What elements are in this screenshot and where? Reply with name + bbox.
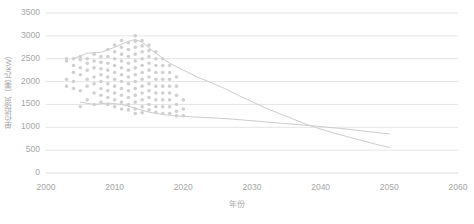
scatter-point: [182, 107, 186, 111]
scatter-point: [147, 61, 151, 65]
scatter-point: [127, 41, 131, 45]
scatter-point: [85, 61, 89, 65]
scatter-point: [133, 40, 137, 44]
scatter-point: [140, 98, 144, 102]
scatter-point: [92, 66, 96, 70]
scatter-point: [147, 68, 151, 72]
scatter-point: [182, 114, 186, 118]
scatter-point: [92, 59, 96, 63]
scatter-point: [99, 87, 103, 91]
scatter-point: [168, 105, 172, 109]
scatter-point: [140, 105, 144, 109]
scatter-point: [72, 80, 76, 84]
gridlines-group: [46, 13, 458, 173]
scatter-point: [161, 91, 165, 95]
scatter-point: [175, 109, 179, 113]
scatter-point: [106, 48, 110, 52]
scatter-point: [161, 84, 165, 88]
scatter-point: [120, 80, 124, 84]
scatter-point: [133, 80, 137, 84]
scatter-point: [133, 66, 137, 70]
scatter-point: [106, 61, 110, 65]
y-tick-label: 1500: [6, 98, 40, 108]
scatter-point: [99, 80, 103, 84]
scatter-point: [113, 84, 117, 88]
scatter-point: [147, 43, 151, 47]
scatter-point: [133, 112, 137, 116]
y-axis-label: 单位投资（美元/kW）: [3, 51, 14, 129]
scatter-point: [106, 82, 110, 86]
scatter-point: [99, 93, 103, 97]
scatter-point: [79, 58, 83, 62]
scatter-point: [154, 71, 158, 75]
scatter-point: [113, 50, 117, 54]
scatter-point: [127, 75, 131, 79]
scatter-point: [79, 73, 83, 77]
scatter-point: [161, 71, 165, 75]
scatter-point: [127, 68, 131, 72]
scatter-point: [133, 73, 137, 77]
scatter-point: [99, 61, 103, 65]
scatter-point: [147, 75, 151, 79]
scatter-point: [147, 103, 151, 107]
x-tick-label: 2010: [95, 182, 135, 192]
scatter-point: [133, 45, 137, 49]
scatter-point: [65, 59, 69, 63]
scatter-point: [120, 107, 124, 111]
scatter-point: [133, 52, 137, 56]
chart-container: 单位投资（美元/kW） 年份 0500100015002000250030003…: [0, 0, 474, 224]
scatter-point: [106, 96, 110, 100]
scatter-point: [140, 71, 144, 75]
scatter-point: [120, 39, 124, 43]
scatter-point: [168, 71, 172, 75]
scatter-point: [154, 91, 158, 95]
scatter-point: [120, 66, 124, 70]
scatter-point: [120, 87, 124, 91]
scatter-point: [147, 96, 151, 100]
scatter-point: [168, 77, 172, 81]
scatter-point: [72, 57, 76, 61]
scatter-point: [161, 112, 165, 116]
scatter-point: [133, 93, 137, 97]
scatter-point: [154, 50, 158, 54]
scatter-point: [168, 84, 172, 88]
x-tick-label: 2030: [232, 182, 272, 192]
x-tick-label: 2020: [163, 182, 203, 192]
scatter-point: [168, 64, 172, 68]
scatter-point: [85, 57, 89, 61]
scatter-point: [147, 49, 151, 53]
trend-line: [80, 102, 389, 134]
scatter-point: [99, 100, 103, 104]
x-axis-label: 年份: [0, 198, 474, 209]
scatter-point: [140, 39, 144, 43]
scatter-point: [113, 64, 117, 68]
scatter-point: [120, 59, 124, 63]
scatter-point: [133, 100, 137, 104]
scatter-point: [85, 68, 89, 72]
scatter-point: [72, 71, 76, 75]
scatter-point: [161, 98, 165, 102]
scatter-point: [161, 64, 165, 68]
scatter-point: [147, 108, 151, 112]
scatter-point: [79, 105, 83, 109]
scatter-point: [92, 103, 96, 107]
scatter-point: [85, 84, 89, 88]
y-tick-label: 2000: [6, 76, 40, 86]
scatter-point: [120, 93, 124, 97]
scatter-point: [140, 50, 144, 54]
x-tick-label: 2040: [301, 182, 341, 192]
scatter-point: [147, 82, 151, 86]
scatter-point: [79, 89, 83, 93]
scatter-point: [79, 55, 83, 59]
scatter-point: [92, 52, 96, 56]
scatter-point: [140, 91, 144, 95]
scatter-point: [154, 84, 158, 88]
scatter-point: [120, 73, 124, 77]
scatter-point: [79, 66, 83, 70]
scatter-point: [127, 48, 131, 52]
scatter-point: [133, 34, 137, 38]
scatter-point: [140, 57, 144, 61]
scatter-point: [113, 105, 117, 109]
y-tick-label: 1000: [6, 121, 40, 131]
scatter-point: [113, 98, 117, 102]
